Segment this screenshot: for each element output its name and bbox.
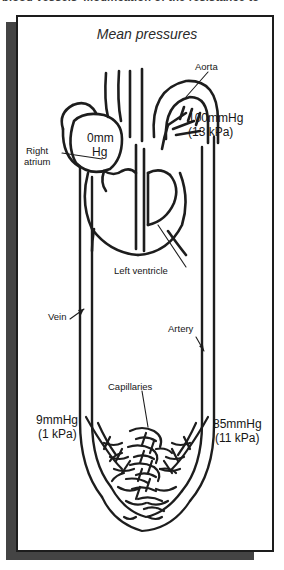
pressure-arterial-mmhg: 85mmHg [213,417,262,431]
pressure-venous-mmhg: 9mmHg [36,413,78,427]
pressure-venous-kpa: (1 kPa) [38,427,77,441]
pressure-aortic-mmhg: 100mmHg [188,111,243,125]
circulation-diagram [18,17,276,554]
label-artery: Artery [168,323,193,335]
clipped-caption-strip: blood vessels’ modification of the resis… [0,0,284,9]
pressure-arterial-kpa: (11 kPa) [215,431,259,445]
heart-outline [62,69,218,255]
figure-frame: Mean pressures [16,15,274,552]
label-vein: Vein [48,311,67,323]
leader-capillaries [142,391,148,427]
pressure-right-atrium-mmhg-line1: 0mm [87,131,114,145]
label-capillaries: Capillaries [108,381,152,393]
label-right-atrium-line2: atrium [24,156,50,168]
capillary-bed [86,417,208,531]
pressure-right-atrium-mmhg-line2: Hg [92,145,107,159]
label-aorta: Aorta [195,61,218,73]
pressure-aortic-kpa: (13 kPa) [188,125,233,139]
clipped-caption-text: blood vessels’ modification of the resis… [2,0,259,3]
label-left-ventricle: Left ventricle [114,265,168,277]
vein-tube [80,167,111,497]
artery-tube [182,137,214,501]
label-right-atrium-line1: Right [26,145,48,157]
leader-left-ventricle [158,225,186,267]
